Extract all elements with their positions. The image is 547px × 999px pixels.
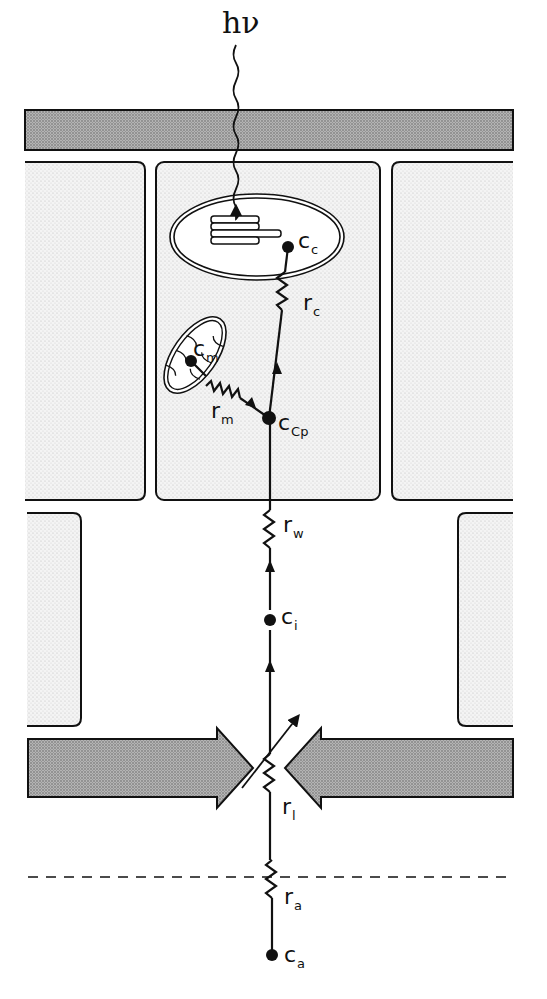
label-rl: rl: [282, 796, 296, 818]
guard-cell-right-arrow: [285, 728, 513, 808]
spongy-cell-left: [27, 513, 81, 726]
guard-cell-left-arrow: [28, 728, 253, 808]
node-cc: [282, 241, 294, 253]
label-ra: ra: [284, 886, 302, 908]
label-rc: rc: [303, 292, 320, 314]
palisade-cell-left: [25, 162, 145, 500]
resistor-rl-icon: [264, 754, 274, 792]
label-ci: ci: [281, 606, 298, 628]
resistor-rw-icon: [264, 510, 274, 548]
node-ccp: [262, 411, 276, 425]
node-ca: [266, 949, 278, 961]
flow-arrow-up-icon: [265, 660, 275, 672]
resistor-ra-icon: [266, 860, 276, 898]
flow-arrow-up-icon: [265, 560, 275, 572]
co2-resistance-diagram: [0, 0, 547, 999]
label-rm: rm: [211, 400, 234, 422]
label-cm: cm: [193, 338, 219, 360]
palisade-cell-right: [392, 162, 513, 500]
label-cc: cc: [298, 230, 318, 252]
spongy-cell-right: [458, 513, 513, 726]
label-ccp: cCp: [278, 412, 308, 434]
label-ca: ca: [284, 944, 305, 966]
light-label: hν: [222, 8, 260, 38]
label-rw: rw: [283, 514, 304, 536]
node-ci: [264, 614, 276, 626]
upper-epidermis-band: [25, 110, 513, 150]
